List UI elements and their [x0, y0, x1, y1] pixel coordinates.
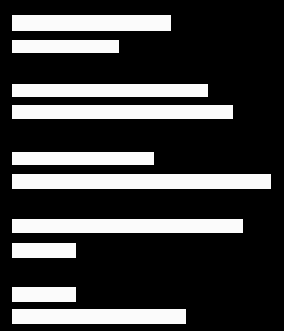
plot-area — [0, 0, 284, 331]
bar-4 — [12, 105, 233, 119]
bar-7 — [12, 219, 243, 233]
bar-8 — [12, 243, 76, 258]
bar-9 — [12, 287, 76, 302]
bar-5 — [12, 152, 154, 165]
bar-1 — [12, 15, 171, 31]
bar-chart — [0, 0, 284, 331]
bar-3 — [12, 84, 208, 97]
bar-10 — [12, 309, 186, 324]
bar-6 — [12, 174, 271, 189]
bar-2 — [12, 40, 119, 53]
